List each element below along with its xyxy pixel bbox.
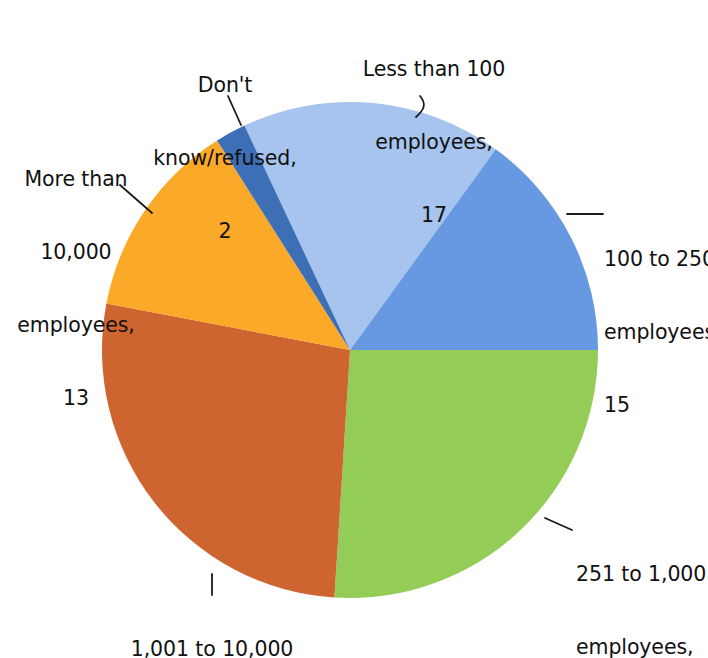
slice-label-value: 2 xyxy=(130,219,320,243)
slice-label-value: 17 xyxy=(330,203,538,227)
slice-label-251-to-1000: 251 to 1,000 employees, 26 xyxy=(576,513,708,658)
slice-label-line: Don't xyxy=(130,73,320,97)
pie-slice-251-to-1000[interactable] xyxy=(334,350,598,598)
slice-label-line: employees, xyxy=(0,313,152,337)
slice-label-line: 1,001 to 10,000 xyxy=(104,637,320,658)
slice-label-dont-know-refused: Don't know/refused, 2 xyxy=(130,24,320,292)
slice-label-more-than-10000: More than 10,000 employees, 13 xyxy=(0,118,152,459)
slice-label-line: 10,000 xyxy=(0,240,152,264)
slice-label-value: 13 xyxy=(0,386,152,410)
slice-label-line: employees, xyxy=(330,130,538,154)
slice-label-line: employees, xyxy=(576,635,708,658)
slice-label-line: More than xyxy=(0,167,152,191)
slice-label-line: know/refused, xyxy=(130,146,320,170)
slice-label-value: 15 xyxy=(604,393,708,417)
slice-label-line: employees, xyxy=(604,320,708,344)
slice-label-1001-to-10000: 1,001 to 10,000 employees, 27 xyxy=(104,588,320,658)
slice-label-less-than-100: Less than 100 employees, 17 xyxy=(330,8,538,276)
leader-line-251-to-1000 xyxy=(545,518,572,530)
slice-label-line: 251 to 1,000 xyxy=(576,562,708,586)
slice-label-line: Less than 100 xyxy=(330,57,538,81)
slice-label-100-to-250: 100 to 250 employees, 15 xyxy=(604,198,708,466)
slice-label-line: 100 to 250 xyxy=(604,247,708,271)
pie-chart-figure: Less than 100 employees, 17 Don't know/r… xyxy=(0,0,708,658)
